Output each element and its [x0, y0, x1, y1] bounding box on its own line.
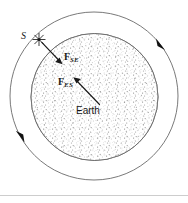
earth-disc [28, 30, 164, 166]
force-se-label: FSE [64, 52, 79, 62]
force-es-subscript: ES [64, 81, 73, 89]
diagram-canvas [0, 0, 188, 203]
figure-container: S FSE FES Earth [0, 0, 188, 203]
sun-label: S [21, 31, 26, 41]
earth-label: Earth [76, 106, 100, 116]
force-es-label: FES [58, 77, 73, 87]
force-se-subscript: SE [70, 56, 79, 64]
orbit-direction-arrow-lower-left [16, 131, 25, 143]
